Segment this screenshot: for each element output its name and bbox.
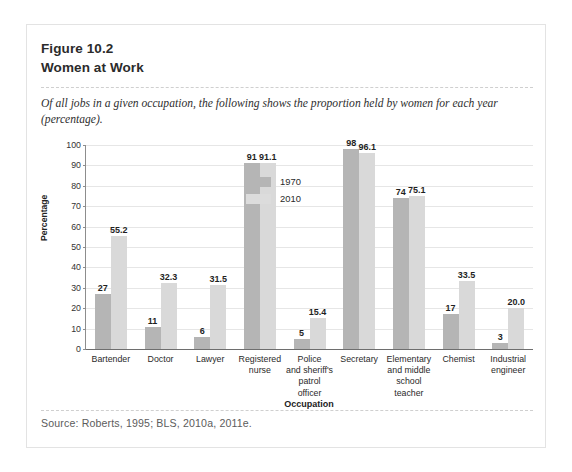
bar-column: 6 [194, 337, 210, 349]
y-axis-tick-label: 90 [71, 160, 81, 170]
bar-group: 7475.1Elementaryand middleschoolteacher [384, 145, 434, 349]
bar-value-label: 74 [396, 187, 406, 197]
bar-value-label: 17 [446, 303, 456, 313]
bar-pair: 7475.1 [384, 145, 434, 349]
bar-value-label: 20.0 [507, 297, 525, 307]
bar-group: 1733.5Chemist [434, 145, 484, 349]
chart-legend: 1970 2010 [246, 173, 301, 207]
bar-value-label: 75.1 [408, 185, 426, 195]
y-axis-tick-label: 100 [66, 140, 81, 150]
bar-value-label: 55.2 [110, 225, 128, 235]
legend-swatch-1970 [246, 177, 271, 187]
bar-value-label: 91.1 [259, 152, 277, 162]
bar-column: 15.4 [310, 318, 326, 349]
legend-label-2010: 2010 [280, 193, 301, 204]
x-axis-tick-line: officer [277, 388, 343, 399]
bar-group: 2755.2Bartender [86, 145, 136, 349]
figure-caption: Of all jobs in a given occupation, the f… [41, 96, 527, 128]
bar-value-label: 27 [98, 283, 108, 293]
bar-pair: 9896.1 [334, 145, 384, 349]
x-axis-tick-line: teacher [376, 388, 442, 399]
legend-label-1970: 1970 [280, 176, 301, 187]
bar-column: 75.1 [409, 196, 425, 349]
bar-2010[interactable] [310, 318, 326, 349]
y-axis-tick-label: 60 [71, 222, 81, 232]
y-axis-tick-label: 50 [71, 242, 81, 252]
figure-source: Source: Roberts, 1995; BLS, 2010a, 2011e… [41, 417, 252, 429]
bar-value-label: 11 [148, 316, 158, 326]
bar-column: 96.1 [359, 153, 375, 349]
bar-group: 631.5Lawyer [185, 145, 235, 349]
bar-2010[interactable] [409, 196, 425, 349]
figure-heading: Women at Work [41, 58, 144, 77]
y-axis-tick-label: 80 [71, 181, 81, 191]
bar-column: 74 [393, 198, 409, 349]
bar-value-label: 91 [247, 152, 257, 162]
legend-item-1970[interactable]: 1970 [246, 173, 301, 190]
x-axis-tick-line: patrol [277, 376, 343, 387]
x-axis-tick-line: Industrial [475, 354, 541, 365]
bar-2010[interactable] [359, 153, 375, 349]
bar-value-label: 96.1 [358, 142, 376, 152]
bar-pair: 631.5 [185, 145, 235, 349]
bar-1970[interactable] [492, 343, 508, 349]
bar-1970[interactable] [443, 314, 459, 349]
bar-pair: 1733.5 [434, 145, 484, 349]
bar-column: 32.3 [161, 283, 177, 349]
x-axis-title: Occupation [85, 399, 533, 409]
bar-group: 320.0Industrialengineer [483, 145, 533, 349]
bar-group: 1132.3Doctor [136, 145, 186, 349]
bar-value-label: 6 [200, 326, 205, 336]
bar-column: 5 [294, 339, 310, 349]
bar-column: 27 [95, 294, 111, 349]
legend-item-2010[interactable]: 2010 [246, 190, 301, 207]
y-axis-tick-label: 40 [71, 262, 81, 272]
bar-column: 20.0 [508, 308, 524, 349]
bar-1970[interactable] [194, 337, 210, 349]
x-axis-tick-label: Industrialengineer [475, 354, 541, 376]
bar-1970[interactable] [95, 294, 111, 349]
bar-1970[interactable] [343, 149, 359, 349]
bar-column: 98 [343, 149, 359, 349]
bar-1970[interactable] [393, 198, 409, 349]
bar-value-label: 32.3 [160, 272, 178, 282]
bar-column: 33.5 [459, 281, 475, 349]
bar-value-label: 98 [346, 138, 356, 148]
bar-1970[interactable] [294, 339, 310, 349]
bar-2010[interactable] [161, 283, 177, 349]
bar-column: 11 [145, 327, 161, 349]
bar-chart: Percentage 0102030405060708090100 1970 2… [41, 137, 535, 405]
bar-column: 3 [492, 343, 508, 349]
figure-title: Figure 10.2 Women at Work [41, 39, 144, 77]
figure-number: Figure 10.2 [41, 39, 144, 58]
y-axis-tick-label: 70 [71, 201, 81, 211]
bar-group: 9896.1Secretary [334, 145, 384, 349]
y-axis-tick-label: 30 [71, 283, 81, 293]
bar-value-label: 33.5 [458, 270, 476, 280]
bar-column: 55.2 [111, 236, 127, 349]
x-axis-tick-line: engineer [475, 365, 541, 376]
y-axis-tick-label: 10 [71, 324, 81, 334]
x-axis-tick-line: and middle [376, 365, 442, 376]
x-axis-tick-line: school [376, 376, 442, 387]
bar-pair: 1132.3 [136, 145, 186, 349]
bar-value-label: 3 [498, 332, 503, 342]
bar-groups: 2755.2Bartender1132.3Doctor631.5Lawyer91… [86, 145, 533, 349]
y-axis-title: Percentage [39, 229, 49, 241]
x-axis-tick-line: and sheriff's [277, 365, 343, 376]
bar-2010[interactable] [210, 285, 226, 349]
divider-bottom [41, 410, 533, 411]
bar-2010[interactable] [459, 281, 475, 349]
y-axis-tick-label: 0 [76, 344, 81, 354]
bar-1970[interactable] [145, 327, 161, 349]
figure-card: Figure 10.2 Women at Work Of all jobs in… [26, 24, 546, 448]
y-axis-tick-label: 20 [71, 303, 81, 313]
bar-column: 31.5 [210, 285, 226, 349]
plot-area: 0102030405060708090100 1970 2010 2755.2B… [85, 145, 533, 350]
bar-value-label: 5 [299, 328, 304, 338]
bar-column: 17 [443, 314, 459, 349]
bar-2010[interactable] [111, 236, 127, 349]
bar-2010[interactable] [508, 308, 524, 349]
bar-value-label: 31.5 [209, 274, 227, 284]
legend-swatch-2010 [246, 194, 271, 204]
